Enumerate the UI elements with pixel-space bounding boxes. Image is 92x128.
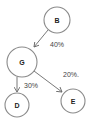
- node-g-label: G: [19, 59, 25, 66]
- edge-g-to-d: 30%: [17, 77, 38, 92]
- edge-label-g-to-e: 20%.: [63, 71, 79, 78]
- edge-label-b-to-g: 40%: [50, 41, 64, 48]
- node-d: D: [5, 93, 29, 117]
- node-e: E: [61, 89, 85, 113]
- node-b-label: B: [54, 17, 59, 24]
- arrow-b-to-g: [34, 30, 48, 47]
- probability-tree-diagram: 40% 30% 20%. B G D E: [0, 0, 92, 128]
- arrow-g-to-e: [34, 71, 62, 92]
- node-g: G: [7, 47, 37, 77]
- node-b: B: [44, 7, 70, 33]
- node-e-label: E: [71, 98, 76, 105]
- node-d-label: D: [14, 102, 19, 109]
- edge-label-g-to-d: 30%: [24, 82, 38, 89]
